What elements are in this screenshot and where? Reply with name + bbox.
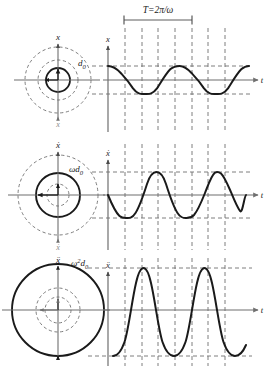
magnitude-label-omega2-d0: ω2d0: [71, 257, 89, 270]
wave-axis-label-t: t: [261, 190, 264, 200]
waveform-acceleration-curve: [113, 268, 246, 356]
shm-figure-svg: T=2π/ω: [0, 0, 267, 373]
magnitude-label-omega-d0: ωd0: [69, 164, 84, 176]
magnitude-label-omega: ωd: [69, 164, 80, 174]
wave-axis-label-x: x: [105, 34, 110, 44]
grid-velocity: [92, 144, 252, 250]
panel-acceleration: ẍ ω2d0 ẍ t: [2, 255, 264, 366]
magnitude-label-d0: d0: [78, 58, 87, 70]
phasor-diagram-displacement: x x d0: [14, 32, 100, 129]
circle-axis-label-x: x: [55, 32, 60, 42]
circle-axis-label-x-lower: x: [55, 120, 60, 129]
wave-axis-label-xdot: ẋ: [105, 148, 110, 158]
phasor-diagram-acceleration: ẍ ω2d0: [2, 255, 110, 360]
wave-axis-label-t: t: [261, 305, 264, 315]
panel-velocity: ẋ ẋ ωd0 ẋ t: [8, 140, 264, 252]
wave-axis-label-xddot: ẍ: [105, 260, 110, 270]
magnitude-label-sub: 0: [85, 263, 89, 270]
wave-axis-label-t: t: [261, 75, 264, 85]
circle-axis-label-xdot-lower: ẋ: [55, 243, 60, 252]
magnitude-label-d0-sub: 0: [83, 63, 87, 70]
panel-displacement: x x d0 x t: [14, 28, 264, 132]
circle-axis-label-xdot: ẋ: [55, 140, 60, 150]
magnitude-label-sub: 0: [80, 169, 84, 176]
circle-axis-label-xddot: ẍ: [55, 255, 60, 265]
figure-root: T=2π/ω: [0, 0, 267, 373]
period-label: T=2π/ω: [143, 5, 174, 15]
period-bracket: T=2π/ω: [124, 5, 192, 25]
phasor-diagram-velocity: ẋ ẋ ωd0: [8, 140, 105, 252]
